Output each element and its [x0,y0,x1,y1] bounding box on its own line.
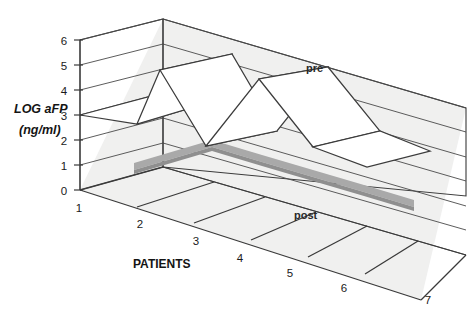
x-tick-label-5: 5 [287,267,293,279]
chart-container: 6 5 4 3 2 1 0 LOG aFP (ng/ml) 1 2 3 4 5 … [0,0,472,310]
y-tick-labels: 6 5 4 3 2 1 0 [61,35,68,197]
y-axis-title-line2: (ng/ml) [19,123,61,137]
y-tick-label-1: 1 [61,160,67,172]
x-tick-label-7: 7 [425,294,431,306]
chart-svg: 6 5 4 3 2 1 0 LOG aFP (ng/ml) 1 2 3 4 5 … [0,0,472,310]
x-tick-label-6: 6 [341,282,347,294]
series-label-post: post [294,209,318,221]
y-tick-label-2: 2 [61,135,67,147]
y-tick-label-4: 4 [61,85,68,97]
series-label-pre: pre [306,62,323,74]
y-tick-label-5: 5 [61,60,67,72]
x-tick-label-1: 1 [76,202,82,214]
x-axis-title: PATIENTS [133,257,191,271]
y-tick-label-0: 0 [61,185,67,197]
x-tick-label-3: 3 [193,235,199,247]
x-tick-label-2: 2 [137,218,143,230]
y-axis [74,40,83,190]
x-tick-label-4: 4 [237,252,244,264]
y-axis-title-line1: LOG aFP [14,102,68,116]
y-tick-label-6: 6 [61,35,67,47]
